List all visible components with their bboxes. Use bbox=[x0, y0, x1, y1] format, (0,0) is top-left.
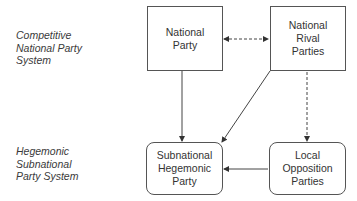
node-local-opposition-parties: Local Opposition Parties bbox=[269, 142, 346, 195]
edge-rival-subnational bbox=[222, 71, 270, 142]
node-national-party: National Party bbox=[147, 6, 223, 71]
node-label: National Rival Parties bbox=[289, 19, 328, 58]
node-label: Local Opposition Parties bbox=[282, 149, 332, 188]
node-national-rival-parties: National Rival Parties bbox=[270, 6, 346, 71]
node-subnational-hegemonic-party: Subnational Hegemonic Party bbox=[146, 142, 223, 195]
node-label: Subnational Hegemonic Party bbox=[157, 149, 212, 188]
node-label: National Party bbox=[166, 26, 205, 52]
